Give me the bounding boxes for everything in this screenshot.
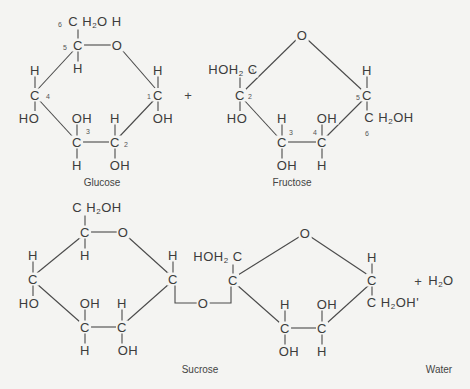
bond-lines: [0, 0, 470, 389]
sucrose-glucose-c2-hydroxyl: OH: [117, 344, 140, 357]
fructose-c3: C: [276, 136, 288, 149]
carbon-number-1: 1: [147, 93, 151, 100]
sucrose-fructose-c1-group: HOH2 C: [192, 250, 243, 265]
glucose-c3-hydrogen: H: [71, 159, 83, 172]
sucrose-glucose-c4: C: [27, 273, 39, 286]
sucrose-glucose-c1-hydrogen: H: [167, 249, 179, 262]
sucrose-fructose-bonds: [233, 237, 372, 345]
sucrose-fructose-c4-hydroxyl: OH: [316, 298, 339, 311]
water-caption: Water: [426, 364, 452, 375]
sucrose-glucose-c2-hydrogen: H: [116, 297, 128, 310]
sucrose-fructose-c6-group: C H2OH': [366, 296, 420, 311]
glycosidic-bridge-oxygen: O: [197, 297, 210, 310]
glucose-c5: C: [72, 39, 84, 52]
glucose-c4: C: [29, 89, 41, 102]
glucose-c2-hydrogen: H: [109, 112, 121, 125]
sucrose-glucose-c1: C: [167, 273, 179, 286]
glucose-c5-hydrogen: H: [72, 62, 84, 75]
sucrose-glucose-c3-hydroxyl: OH: [79, 297, 102, 310]
glucose-c2: C: [109, 136, 121, 149]
fructose-c3-hydroxyl: OH: [276, 159, 299, 172]
glucose-ch2oh-group: C H2O H: [67, 15, 122, 30]
sucrose-glucose-c5-hydrogen: H: [79, 249, 91, 262]
carbon-number-2: 2: [248, 93, 252, 100]
glucose-c1-hydrogen: H: [152, 64, 164, 77]
sucrose-glucose-ch2oh: C H2OH: [71, 201, 122, 216]
sucrose-glucose-ring-oxygen: O: [117, 226, 130, 239]
carbon-number-4: 4: [46, 93, 50, 100]
carbon-number-1: 1: [251, 68, 255, 75]
fructose-c5: C: [361, 89, 373, 102]
sucrose-glucose-c4-hydroxyl: HO: [18, 297, 41, 310]
sucrose-fructose-c3: C: [279, 322, 291, 335]
glucose-bonds: [35, 28, 158, 159]
carbon-number-6: 6: [58, 21, 62, 28]
fructose-c4: C: [316, 136, 328, 149]
carbon-number-2: 2: [124, 141, 128, 148]
fructose-c6-group: C H2OH: [363, 111, 414, 126]
sucrose-caption: Sucrose: [182, 364, 219, 375]
glucose-c1: C: [152, 89, 164, 102]
carbon-number-5: 5: [63, 44, 67, 51]
sucrose-glucose-c3: C: [79, 321, 91, 334]
sucrose-fructose-c4: C: [316, 322, 328, 335]
glucose-c4-hydroxyl: HO: [18, 112, 41, 125]
fructose-ring-oxygen: O: [296, 29, 309, 42]
fructose-c3-hydrogen: H: [276, 112, 288, 125]
glucose-caption: Glucose: [84, 177, 121, 188]
glucose-ring-oxygen: O: [111, 39, 124, 52]
sucrose-fructose-c3-hydrogen: H: [279, 298, 291, 311]
glucose-c1-hydroxyl: OH: [152, 112, 175, 125]
carbon-number-6: 6: [365, 130, 369, 137]
carbon-number-3: 3: [289, 129, 293, 136]
sucrose-glucose-c5: C: [79, 226, 91, 239]
sucrose-glucose-c4-hydrogen: H: [27, 249, 39, 262]
sucrose-fructose-c5-hydrogen: H: [366, 251, 378, 264]
water-formula: H2O: [427, 274, 454, 289]
sucrose-fructose-c2: C: [227, 274, 239, 287]
fructose-c2-hydroxyl: HO: [226, 112, 249, 125]
fructose-caption: Fructose: [273, 177, 312, 188]
fructose-c4-hydrogen: H: [316, 159, 328, 172]
fructose-bonds: [240, 40, 367, 159]
plus-sign: +: [184, 88, 192, 103]
glucose-c3-hydroxyl: OH: [71, 112, 94, 125]
sucrose-fructose-c5: C: [366, 274, 378, 287]
sucrose-glucose-c2: C: [116, 321, 128, 334]
sucrose-glucose-bonds: [33, 214, 231, 344]
sucrose-fructose-c3-hydroxyl: OH: [278, 345, 301, 358]
glucose-c4-hydrogen: H: [29, 64, 41, 77]
plus-sign-2: +: [414, 274, 422, 289]
carbon-number-3: 3: [86, 128, 90, 135]
fructose-c4-hydroxyl: OH: [316, 112, 339, 125]
sucrose-fructose-ring-oxygen: O: [299, 227, 312, 240]
glucose-c3: C: [71, 136, 83, 149]
sucrose-fructose-c4-hydrogen: H: [316, 345, 328, 358]
carbon-number-5: 5: [356, 94, 360, 101]
fructose-c5-hydrogen: H: [361, 64, 373, 77]
sucrose-glucose-c3-hydrogen: H: [79, 344, 91, 357]
fructose-c2: C: [234, 89, 246, 102]
glucose-c2-hydroxyl: OH: [109, 159, 132, 172]
